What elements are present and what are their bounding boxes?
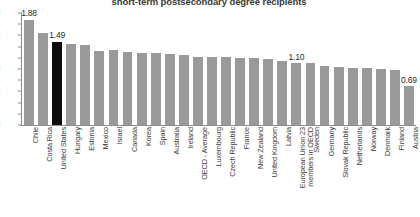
bar <box>207 57 217 125</box>
x-axis-labels: ChileCosta RicaUnited StatesHungaryEston… <box>22 127 416 217</box>
bar <box>404 86 414 125</box>
x-axis-label: Spain <box>159 127 167 145</box>
bar <box>390 70 400 125</box>
x-axis-label: Germany <box>328 127 336 156</box>
bar <box>94 51 104 125</box>
bar-value-label: 1.10 <box>289 53 305 62</box>
bar-highlighted <box>52 42 62 125</box>
x-axis-label: OECD - Average <box>201 127 209 180</box>
bar-value-label: 1.49 <box>49 31 65 40</box>
bar <box>263 59 273 125</box>
x-axis-label: Denmark <box>384 127 392 156</box>
bar-slot <box>306 13 316 125</box>
bar-slot <box>137 13 147 125</box>
x-axis-label: Norway <box>370 127 378 151</box>
bar-slot <box>179 13 189 125</box>
bar <box>348 68 358 125</box>
bar <box>193 57 203 125</box>
x-axis-label: Ireland <box>187 127 195 149</box>
bar-slot <box>376 13 386 125</box>
x-axis-label: United States <box>60 127 68 170</box>
x-axis-label: Australia <box>173 127 181 155</box>
x-axis-label: Mexico <box>102 127 110 150</box>
bar <box>249 58 259 125</box>
bar-slot <box>66 13 76 125</box>
bar <box>151 53 161 125</box>
plot-area: 1.881.491.100.69 <box>22 13 416 125</box>
bar-slot <box>80 13 90 125</box>
bar-slot <box>277 13 287 125</box>
bar <box>376 69 386 125</box>
bar-slot <box>94 13 104 125</box>
bar-slot <box>235 13 245 125</box>
x-axis-label: United Kingdom <box>271 127 279 178</box>
y-axis: 0.00.20.40.60.81.01.21.41.61.82.0 <box>0 0 22 217</box>
x-axis-label: Chile <box>32 127 40 143</box>
bar-slot <box>320 13 330 125</box>
x-axis-label: Israel <box>116 127 124 144</box>
bar <box>165 54 175 125</box>
bar-slot: 1.10 <box>291 13 301 125</box>
x-axis-label: Costa Rica <box>46 127 54 162</box>
bar-slot <box>390 13 400 125</box>
bar-slot <box>109 13 119 125</box>
x-axis-label: Korea <box>145 127 153 146</box>
bar-slot <box>249 13 259 125</box>
bar-slot <box>38 13 48 125</box>
bar <box>109 50 119 125</box>
x-axis-label: Hungary <box>74 127 82 154</box>
x-axis-label: Czech Republic <box>229 127 237 177</box>
bar-value-label: 0.69 <box>401 76 417 85</box>
bar <box>362 68 372 125</box>
x-axis-label: Austria <box>412 127 420 149</box>
bar <box>80 45 90 125</box>
x-axis-label: Finland <box>398 127 406 150</box>
bar-slot: 0.69 <box>404 13 414 125</box>
bar-slot <box>334 13 344 125</box>
bar <box>38 33 48 125</box>
bar-slot <box>348 13 358 125</box>
bar <box>66 44 76 125</box>
x-axis-label: Estonia <box>88 127 96 151</box>
bar-slot <box>123 13 133 125</box>
x-axis-label: France <box>243 127 251 149</box>
x-axis-label: Latvia <box>285 127 293 146</box>
x-axis-label: Netherlands <box>356 127 364 165</box>
bar-slot: 1.49 <box>52 13 62 125</box>
bar <box>24 20 34 125</box>
bar <box>334 67 344 125</box>
x-axis-label: New Zealand <box>257 127 265 169</box>
bar <box>221 57 231 125</box>
bar-slot <box>221 13 231 125</box>
x-axis-label: Luxembourg <box>215 127 223 167</box>
bar <box>179 55 189 125</box>
bar-slot <box>362 13 372 125</box>
bar <box>320 66 330 125</box>
bar-slot <box>193 13 203 125</box>
chart-title: short-term postsecondary degree recipien… <box>0 0 418 7</box>
x-axis-label: Sweden <box>313 127 321 153</box>
bar <box>306 63 316 125</box>
bar-value-label: 1.88 <box>21 9 37 18</box>
bar <box>277 61 287 125</box>
bar <box>291 63 301 125</box>
bar <box>137 53 147 125</box>
bar-slot <box>263 13 273 125</box>
x-axis-label: Canada <box>131 127 139 152</box>
bar-slot <box>165 13 175 125</box>
bar-slot <box>207 13 217 125</box>
bar <box>235 58 245 125</box>
bar-slot: 1.88 <box>24 13 34 125</box>
x-axis-label: Slovak Republic <box>342 127 350 178</box>
bar <box>123 52 133 125</box>
bar-slot <box>151 13 161 125</box>
